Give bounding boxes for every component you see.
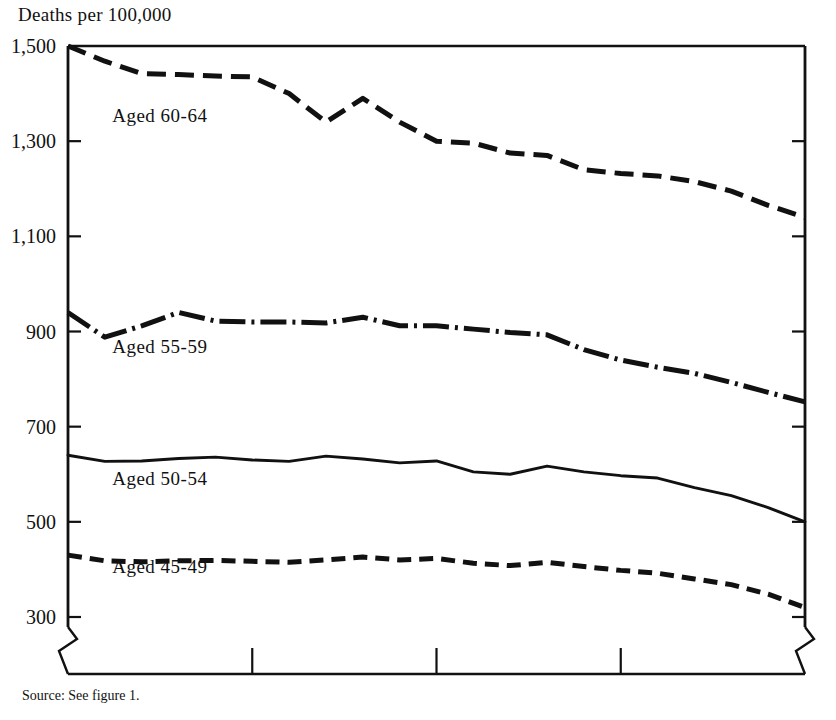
series-line-aged-55-59 xyxy=(68,312,805,401)
line-chart-plot: 3005007009001,1001,3001,5001960196519701… xyxy=(0,0,836,680)
axis-break-right-icon xyxy=(796,627,814,674)
series-label-aged-60-64: Aged 60-64 xyxy=(112,105,207,126)
y-tick-label: 300 xyxy=(26,606,56,628)
y-tick-label: 1,300 xyxy=(11,130,56,152)
y-tick-label: 500 xyxy=(26,511,56,533)
series-label-aged-50-54: Aged 50-54 xyxy=(112,468,207,489)
y-axis-title: Deaths per 100,000 xyxy=(18,4,172,26)
axis-break-left-icon xyxy=(59,627,77,674)
series-label-aged-55-59: Aged 55-59 xyxy=(112,336,207,357)
series-line-aged-60-64 xyxy=(68,46,805,217)
y-tick-label: 1,100 xyxy=(11,225,56,247)
y-tick-label: 900 xyxy=(26,321,56,343)
y-tick-label: 700 xyxy=(26,416,56,438)
y-tick-label: 1,500 xyxy=(11,35,56,57)
source-note: Source: See figure 1. xyxy=(22,688,139,704)
figure-container: Deaths per 100,000 3005007009001,1001,30… xyxy=(0,0,836,720)
series-label-aged-45-49: Aged 45-49 xyxy=(112,556,207,577)
